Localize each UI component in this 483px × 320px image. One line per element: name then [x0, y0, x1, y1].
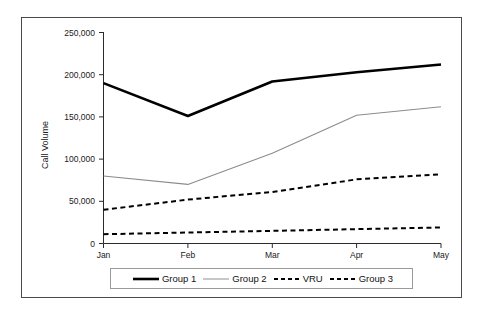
- y-tick-label: 0: [90, 239, 95, 249]
- dashed-black-line-icon: [330, 274, 356, 284]
- y-axis-labels: 250,000 200,000 150,000 100,000 50,000 0: [64, 28, 95, 249]
- thin-solid-gray-line-icon: [203, 274, 229, 284]
- y-tick-label: 200,000: [64, 70, 95, 80]
- legend-entry-group-3: Group 3: [325, 273, 395, 284]
- y-axis-ticks: [99, 33, 104, 244]
- x-axis-labels: Jan Feb Mar Apr May: [97, 250, 450, 260]
- series-line-vru: [104, 174, 442, 209]
- x-tick-label: May: [433, 250, 450, 260]
- thick-solid-black-line-icon: [133, 274, 159, 284]
- y-tick-label: 250,000: [64, 28, 95, 38]
- x-tick-label: Mar: [265, 250, 280, 260]
- chart-legend: Group 1 Group 2 VRU Group 3: [110, 268, 413, 289]
- x-axis-ticks: [104, 244, 442, 249]
- y-tick-label: 150,000: [64, 112, 95, 122]
- legend-label: Group 3: [359, 273, 395, 284]
- y-axis-title: Call Volume: [40, 121, 50, 169]
- y-tick-label: 100,000: [64, 154, 95, 164]
- x-tick-label: Feb: [181, 250, 196, 260]
- legend-label: Group 1: [162, 273, 198, 284]
- legend-label: Group 2: [232, 273, 268, 284]
- legend-entry-group-2: Group 2: [198, 273, 268, 284]
- legend-label: VRU: [303, 273, 325, 284]
- series-layer: [104, 65, 442, 235]
- y-tick-label: 50,000: [69, 196, 95, 206]
- series-line-group-2: [104, 107, 442, 185]
- legend-entry-vru: VRU: [269, 273, 325, 284]
- series-line-group-1: [104, 65, 442, 116]
- legend-entry-group-1: Group 1: [128, 273, 198, 284]
- x-tick-label: Jan: [97, 250, 111, 260]
- dashed-black-line-icon: [274, 274, 300, 284]
- x-tick-label: Apr: [350, 250, 363, 260]
- series-line-group-3: [104, 227, 442, 234]
